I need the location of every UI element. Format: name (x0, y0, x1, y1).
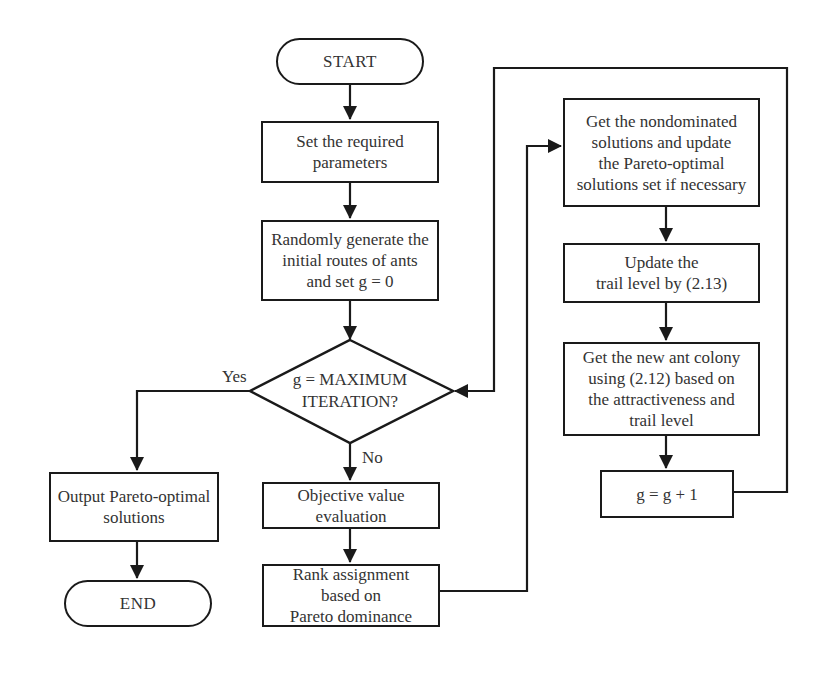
rank-assignment-label: Rank assignment based on Pareto dominanc… (290, 564, 412, 627)
set-parameters-label: Set the required parameters (296, 131, 404, 173)
yes-label: Yes (222, 367, 247, 387)
nondominated-label: Get the nondominated solutions and updat… (577, 111, 747, 195)
increment-box: g = g + 1 (600, 470, 734, 518)
new-colony-box: Get the new ant colony using (2.12) base… (563, 342, 760, 436)
end-terminal: END (64, 580, 212, 627)
rank-assignment-box: Rank assignment based on Pareto dominanc… (262, 564, 440, 627)
output-box: Output Pareto-optimal solutions (49, 472, 219, 542)
decision-label: g = MAXIMUM ITERATION? (270, 369, 430, 413)
arrow-decision-yes-to-output (137, 391, 250, 470)
start-label: START (323, 51, 377, 72)
objective-eval-box: Objective value evaluation (262, 482, 440, 529)
increment-label: g = g + 1 (636, 484, 698, 505)
update-trail-label: Update the trail level by (2.13) (596, 252, 727, 294)
start-terminal: START (276, 38, 424, 85)
arrow-rank-to-nondominated (440, 146, 561, 591)
new-colony-label: Get the new ant colony using (2.12) base… (583, 347, 741, 431)
objective-eval-label: Objective value evaluation (297, 485, 404, 527)
end-label: END (120, 593, 156, 614)
update-trail-box: Update the trail level by (2.13) (563, 243, 760, 303)
no-label: No (362, 448, 383, 468)
output-label: Output Pareto-optimal solutions (58, 486, 211, 528)
nondominated-box: Get the nondominated solutions and updat… (563, 98, 760, 207)
random-init-label: Randomly generate the initial routes of … (271, 229, 429, 292)
set-parameters-box: Set the required parameters (261, 121, 439, 183)
random-init-box: Randomly generate the initial routes of … (261, 220, 439, 301)
